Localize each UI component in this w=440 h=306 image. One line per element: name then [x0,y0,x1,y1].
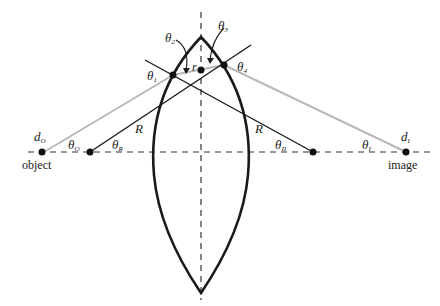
right-surface-point [221,62,228,69]
left-surface-point [170,72,177,79]
image-point [403,149,410,156]
label-theta-2: θ2 [165,30,175,46]
label-theta-R: θR [112,137,123,153]
label-theta-3: θ3 [218,18,228,34]
right-center-point [310,149,317,156]
label-theta-1: θ1 [147,68,157,84]
label-theta-I: θI [362,137,371,153]
label-radius-right: R [254,121,263,136]
label-r: r [192,60,197,74]
label-image: image [388,158,417,172]
label-radius-left: R [134,121,143,136]
label-theta-II: θII [275,137,287,153]
label-d-object: dO [34,129,46,145]
lens-diagram: dO object dI image θO θR θII θI θ1 θ2 θ3… [0,0,440,306]
refracted-ray [224,65,406,152]
label-object: object [22,158,52,172]
label-theta-O: θO [68,137,79,153]
label-d-image: dI [401,129,411,145]
object-point [39,149,46,156]
radius-line-left [90,45,251,152]
theta3-arrowhead-icon [207,58,214,64]
r-point [198,67,205,74]
label-theta-4: θ4 [237,59,247,75]
left-center-point [87,149,94,156]
